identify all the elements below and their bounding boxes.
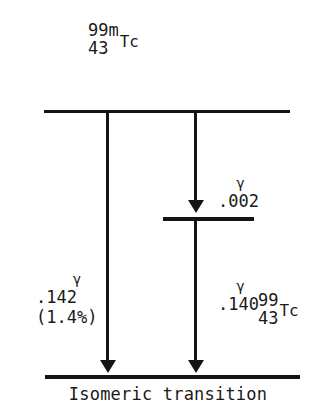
gamma-142-energy: .142 [36, 287, 108, 307]
daughter-nuclide-label: 99 43 Tc [258, 292, 299, 328]
transition-arrow-gamma-002-shaft [194, 112, 197, 205]
parent-element-symbol: Tc [120, 34, 139, 51]
parent-nuclide-label: 99m 43 Tc [88, 22, 139, 58]
daughter-element-symbol: Tc [279, 303, 298, 320]
decay-scheme-diagram: 99m 43 Tc γ .142 (1.4%) γ .002 γ .140 99… [0, 0, 336, 419]
gamma-icon: γ [218, 176, 259, 190]
parent-atomic-number: 43 [88, 40, 108, 58]
transition-arrow-gamma-140-shaft [194, 220, 197, 365]
transition-arrow-gamma-140-head [188, 360, 204, 373]
transition-arrow-gamma-142-head [100, 360, 116, 373]
gamma-142-label: γ .142 (1.4%) [36, 272, 108, 327]
gamma-002-energy: .002 [218, 191, 259, 211]
gamma-icon: γ [36, 272, 108, 286]
daughter-nuclide-numbers: 99 43 [258, 292, 278, 328]
diagram-caption: Isomeric transition [0, 384, 336, 404]
excited-state-level-line [44, 110, 290, 113]
parent-nuclide-numbers: 99m 43 [88, 22, 119, 58]
gamma-142-intensity: (1.4%) [36, 307, 108, 327]
gamma-140-energy: .140 [218, 294, 259, 314]
ground-state-level-line [45, 375, 300, 379]
intermediate-state-level-line [163, 217, 254, 221]
daughter-atomic-number: 43 [258, 310, 278, 328]
gamma-002-label: γ .002 [218, 176, 259, 211]
gamma-140-label: γ .140 [218, 279, 259, 314]
gamma-icon: γ [218, 279, 259, 293]
transition-arrow-gamma-002-head [188, 200, 204, 213]
